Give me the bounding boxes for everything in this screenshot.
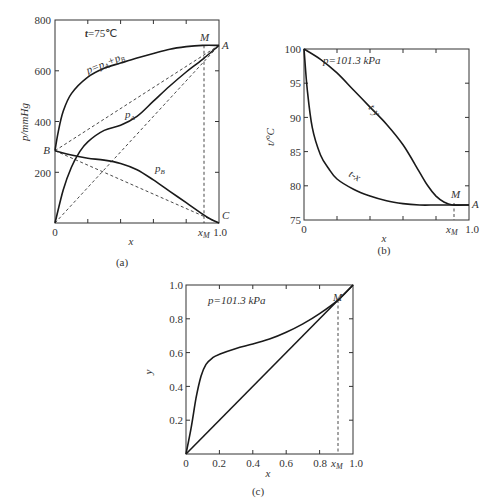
chart-b-ytick-85: 85 <box>290 146 302 158</box>
chart-a-point-b: B <box>43 144 50 156</box>
chart-a: 800 600 400 200 B 0 xM 1.0 x (a) p/mmHg … <box>18 14 230 269</box>
chart-b-xtick-1: 1.0 <box>465 223 479 235</box>
chart-c-ytick-04: 0.4 <box>169 381 183 393</box>
chart-b-point-m: M <box>450 188 461 200</box>
chart-a-xtick-0: 0 <box>52 226 58 238</box>
chart-a-xtick-xm: xM <box>197 226 211 240</box>
chart-b-ytick-80: 80 <box>290 180 302 192</box>
chart-a-point-m: M <box>199 31 210 43</box>
chart-b-ytick-100: 100 <box>285 43 302 55</box>
chart-b-ytick-95: 95 <box>290 77 302 89</box>
chart-b-frame <box>304 49 469 220</box>
chart-a-ytick-800: 800 <box>35 14 52 26</box>
chart-b-tx-label: t-x <box>347 167 363 183</box>
chart-c: 1.0 0.8 0.6 0.4 0.2 0 0.2 0.4 0.6 0.8 xM… <box>142 279 363 498</box>
chart-b: 100 95 90 85 80 75 0 xM 1.0 x (b) t/°C p… <box>264 43 479 257</box>
chart-b-pressure-note: p=101.3 kPa <box>322 54 381 66</box>
chart-a-ideal-pb-line <box>55 151 219 223</box>
chart-a-frame <box>55 20 219 223</box>
chart-c-caption: (c) <box>252 485 265 498</box>
chart-a-xtick-1: 1.0 <box>213 226 227 238</box>
chart-a-pb-label: pB <box>154 162 166 176</box>
chart-b-ylabel: t/°C <box>264 127 276 146</box>
chart-c-xtick-08: 0.8 <box>313 457 327 469</box>
chart-a-point-c: C <box>222 209 230 221</box>
chart-a-caption: (a) <box>116 256 129 269</box>
chart-b-ticks <box>304 49 469 220</box>
chart-b-xtick-0: 0 <box>301 223 307 235</box>
chart-a-ytick-200: 200 <box>35 167 52 179</box>
chart-c-xtick-1: 1.0 <box>349 457 363 469</box>
chart-b-caption: (b) <box>378 244 391 257</box>
chart-c-xtick-xm: xM <box>330 457 344 471</box>
chart-a-point-a: A <box>221 39 229 51</box>
chart-c-xtick-02: 0.2 <box>212 457 226 469</box>
chart-a-ideal-pa-line <box>55 45 219 223</box>
figure-canvas: 800 600 400 200 B 0 xM 1.0 x (a) p/mmHg … <box>0 0 486 504</box>
chart-b-xlabel: x <box>381 232 387 244</box>
chart-c-ytick-06: 0.6 <box>169 347 183 359</box>
chart-c-xtick-04: 0.4 <box>246 457 260 469</box>
chart-c-ylabel: y <box>142 369 154 375</box>
chart-b-ytick-75: 75 <box>290 214 302 226</box>
chart-b-point-a: A <box>471 198 479 210</box>
chart-c-xtick-0: 0 <box>183 457 189 469</box>
chart-c-ytick-1: 1.0 <box>169 279 183 291</box>
chart-b-xtick-xm: xM <box>445 223 459 237</box>
chart-a-ideal-total-line <box>55 45 219 150</box>
chart-a-ticks <box>55 20 219 223</box>
chart-a-temperature-note: tt=75℃ <box>85 27 117 39</box>
chart-c-xtick-06: 0.6 <box>279 457 293 469</box>
chart-a-ylabel: p/mmHg <box>18 103 30 142</box>
chart-c-point-m: M <box>332 291 343 303</box>
chart-c-xlabel: x <box>265 467 271 479</box>
chart-b-tx-curve <box>304 49 469 205</box>
chart-c-ytick-02: 0.2 <box>169 414 183 426</box>
chart-c-ytick-08: 0.8 <box>169 313 183 325</box>
chart-a-pa-label: pA <box>124 108 136 122</box>
chart-b-ytick-90: 90 <box>290 112 302 124</box>
chart-b-ty-curve <box>304 49 469 205</box>
chart-a-ytick-400: 400 <box>35 116 52 128</box>
chart-c-pressure-note: p=101.3 kPa <box>207 294 266 306</box>
chart-a-xlabel: x <box>128 235 134 247</box>
chart-c-diagonal-line <box>186 285 353 454</box>
chart-a-ytick-600: 600 <box>35 65 52 77</box>
chart-b-ty-label: t-y <box>366 102 383 119</box>
